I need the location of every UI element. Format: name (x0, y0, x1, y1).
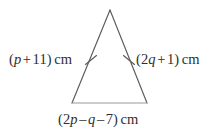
left-unit-cm: cm (52, 51, 72, 67)
left-side-length-label: (p+11)cm (9, 52, 72, 67)
right-operator: + (156, 51, 167, 67)
base-side-length-label: (2p–q–7)cm (58, 112, 138, 127)
left-constant: 11 (33, 51, 47, 67)
base-operator-1: – (78, 111, 88, 127)
left-operator: + (21, 51, 32, 67)
congruence-tick-marks (86, 56, 135, 65)
base-unit-cm: cm (118, 111, 138, 127)
right-variable-q: q (148, 51, 155, 67)
base-operator-2: – (95, 111, 105, 127)
base-constant: 7 (106, 111, 113, 127)
base-variable-p: p (70, 111, 77, 127)
left-close-paren: ) (47, 51, 52, 67)
right-side-length-label: (2q+1)cm (136, 52, 200, 67)
geometry-figure: (p+11)cm (2q+1)cm (2p–q–7)cm (0, 0, 224, 138)
triangle-left-side (72, 10, 110, 103)
right-unit-cm: cm (179, 51, 199, 67)
